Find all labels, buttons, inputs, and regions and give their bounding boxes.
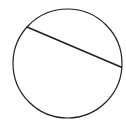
circle-chord-diagram (0, 0, 126, 129)
figure-background (0, 0, 126, 129)
geometry-figure (0, 0, 126, 129)
